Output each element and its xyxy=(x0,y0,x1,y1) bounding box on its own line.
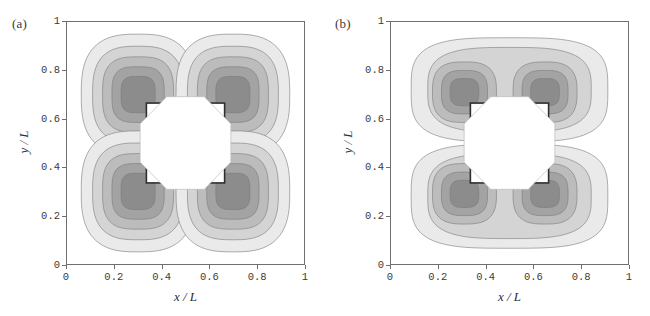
x-tickmark xyxy=(533,265,534,269)
y-tickmark xyxy=(62,265,66,266)
obstacle-octagon xyxy=(140,97,231,190)
y-tickmark xyxy=(386,119,390,120)
contour-band xyxy=(531,180,560,207)
y-tickmark xyxy=(62,167,66,168)
x-tick-label: 0 xyxy=(63,271,69,283)
contour-band xyxy=(450,180,479,207)
panel-label-b: (b) xyxy=(335,16,351,32)
x-tickmark xyxy=(162,265,163,269)
x-tickmark xyxy=(390,265,391,269)
y-tickmark xyxy=(386,265,390,266)
contour-band xyxy=(531,79,560,106)
y-axis-title-a: y / L xyxy=(16,122,32,162)
y-tick-label: 0.6 xyxy=(28,113,60,125)
x-tick-label: 0.2 xyxy=(428,271,447,283)
x-tickmark xyxy=(209,265,210,269)
y-tick-label: 0.6 xyxy=(352,113,384,125)
x-tick-label: 0.2 xyxy=(104,271,123,283)
contour-plot-a xyxy=(67,22,304,264)
plot-frame-b xyxy=(390,21,629,265)
x-tick-label: 0.6 xyxy=(524,271,543,283)
x-tickmark xyxy=(66,265,67,269)
y-tick-label: 0 xyxy=(28,259,60,271)
plot-frame-a xyxy=(66,21,305,265)
x-tick-label: 0 xyxy=(387,271,393,283)
y-tickmark xyxy=(62,70,66,71)
y-tick-label: 0.2 xyxy=(352,210,384,222)
x-tick-label: 1 xyxy=(302,271,308,283)
panel-a: (a)00.20.40.60.8100.20.40.60.81x / Ly / … xyxy=(0,0,325,316)
y-tickmark xyxy=(386,216,390,217)
contour-band xyxy=(450,79,479,106)
y-tick-label: 0.4 xyxy=(28,161,60,173)
y-tick-label: 0.8 xyxy=(28,64,60,76)
figure-root: (a)00.20.40.60.8100.20.40.60.81x / Ly / … xyxy=(0,0,650,316)
obstacle xyxy=(464,97,555,190)
x-tick-label: 0.4 xyxy=(152,271,171,283)
y-tickmark xyxy=(62,119,66,120)
x-tick-label: 1 xyxy=(626,271,632,283)
y-tickmark xyxy=(62,21,66,22)
y-tickmark xyxy=(386,70,390,71)
x-tick-label: 0.8 xyxy=(572,271,591,283)
x-tickmark xyxy=(581,265,582,269)
y-tick-label: 0.4 xyxy=(352,161,384,173)
y-tickmark xyxy=(62,216,66,217)
y-axis-title-b: y / L xyxy=(340,122,356,162)
y-tick-label: 0 xyxy=(352,259,384,271)
x-tickmark xyxy=(629,265,630,269)
x-tickmark xyxy=(486,265,487,269)
x-tickmark xyxy=(114,265,115,269)
x-tickmark xyxy=(305,265,306,269)
y-tick-label: 0.2 xyxy=(28,210,60,222)
x-tickmark xyxy=(257,265,258,269)
obstacle-octagon xyxy=(464,97,555,190)
panel-b: (b)00.20.40.60.8100.20.40.60.81x / Ly / … xyxy=(325,0,650,316)
y-tick-label: 1 xyxy=(352,15,384,27)
x-tick-label: 0.6 xyxy=(200,271,219,283)
obstacle xyxy=(140,97,231,190)
x-axis-title-a: x / L xyxy=(174,289,197,305)
y-tickmark xyxy=(386,167,390,168)
y-tick-label: 0.8 xyxy=(352,64,384,76)
panel-label-a: (a) xyxy=(12,16,27,32)
x-tick-label: 0.4 xyxy=(476,271,495,283)
contour-plot-b xyxy=(391,22,628,264)
x-axis-title-b: x / L xyxy=(498,289,521,305)
y-tick-label: 1 xyxy=(28,15,60,27)
x-tickmark xyxy=(438,265,439,269)
y-tickmark xyxy=(386,21,390,22)
x-tick-label: 0.8 xyxy=(248,271,267,283)
